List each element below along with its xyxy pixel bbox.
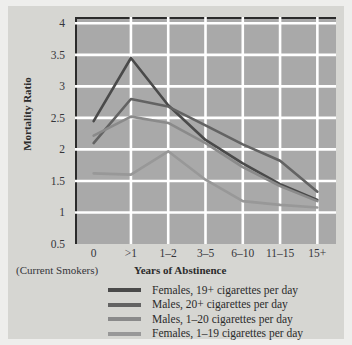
series-line [94, 99, 318, 192]
x-tick-label: 3–5 [197, 247, 214, 259]
y-tick-label: 3.5 [51, 49, 65, 61]
chart-legend: Females, 19+ cigarettes per dayMales, 20… [108, 283, 343, 341]
legend-label: Males, 1–20 cigarettes per day [152, 314, 293, 326]
legend-color-swatch [108, 288, 141, 292]
y-axis-tick-labels: 43.532.521.510.5 [8, 17, 70, 244]
legend-color-swatch [108, 332, 141, 336]
legend-item: Males, 20+ cigarettes per day [108, 298, 343, 313]
y-tick-label: 1 [59, 206, 65, 218]
y-tick-label: 0.5 [51, 238, 65, 250]
x-axis-tick-labels: 0>11–23–56–1011–1515+ [75, 247, 336, 263]
y-tick-label: 2 [59, 143, 65, 155]
x-tick-label: 15+ [308, 247, 326, 259]
legend-label: Females, 1–19 cigarettes per day [152, 328, 303, 340]
y-tick-label: 3 [59, 80, 65, 92]
legend-item: Males, 1–20 cigarettes per day [108, 312, 343, 327]
series-line [94, 151, 318, 207]
y-tick-label: 1.5 [51, 175, 65, 187]
legend-color-swatch [108, 303, 141, 307]
plot-wrapper [75, 17, 336, 244]
chart-figure: Mortality Ratio 43.532.521.510.5 0>11–23… [8, 6, 344, 339]
x-tick-label: 0 [91, 247, 97, 259]
legend-label: Males, 20+ cigarettes per day [152, 299, 288, 311]
current-smokers-note: (Current Smokers) [16, 264, 98, 276]
legend-item: Females, 19+ cigarettes per day [108, 283, 343, 298]
data-series-lines [75, 17, 336, 244]
x-tick-label: 11–15 [266, 247, 294, 259]
x-axis-title: Years of Abstinence [134, 264, 226, 276]
legend-label: Females, 19+ cigarettes per day [152, 285, 298, 297]
series-line [94, 117, 318, 201]
legend-color-swatch [108, 317, 141, 321]
x-tick-label: 1–2 [160, 247, 177, 259]
y-tick-label: 2.5 [51, 112, 65, 124]
x-tick-label: 6–10 [231, 247, 254, 259]
y-tick-label: 4 [59, 17, 65, 29]
x-tick-label: >1 [125, 247, 137, 259]
legend-item: Females, 1–19 cigarettes per day [108, 327, 343, 342]
